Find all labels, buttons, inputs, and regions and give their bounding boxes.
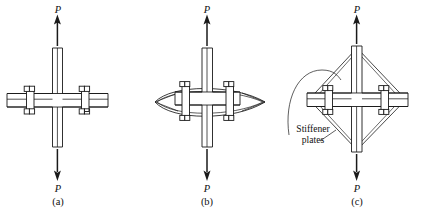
figure-panel-c: Stiffener plates P P (c) — [284, 0, 426, 215]
load-label-bottom-c: P — [343, 183, 371, 194]
panel-caption-c: (c) — [342, 196, 372, 207]
figure-root: P P (a) — [0, 0, 426, 215]
load-arrow-top-c — [353, 15, 360, 45]
stiffener-plates-annotation-line2: plates — [284, 135, 342, 145]
cross-intersection-c — [352, 94, 361, 106]
cross-intersection-a — [53, 94, 61, 106]
load-arrow-bottom-b — [204, 149, 211, 181]
load-label-top-b: P — [193, 4, 221, 15]
cross-intersection-b — [203, 93, 212, 104]
panel-caption-b: (b) — [192, 196, 222, 207]
stiffener-plates-annotation-line1: Stiffener — [284, 124, 342, 134]
load-label-top-a: P — [44, 4, 72, 15]
load-label-top-c: P — [343, 4, 371, 15]
figure-panel-a: P P (a) — [0, 0, 142, 215]
load-arrow-bottom-c — [353, 154, 360, 181]
load-arrow-bottom-a — [54, 149, 61, 181]
figure-panel-b: P P (b) — [142, 0, 284, 215]
load-label-bottom-a: P — [44, 183, 72, 194]
panel-caption-a: (a) — [43, 196, 73, 207]
load-label-bottom-b: P — [193, 183, 221, 194]
load-arrow-top-b — [204, 15, 211, 47]
load-arrow-top-a — [54, 15, 61, 47]
